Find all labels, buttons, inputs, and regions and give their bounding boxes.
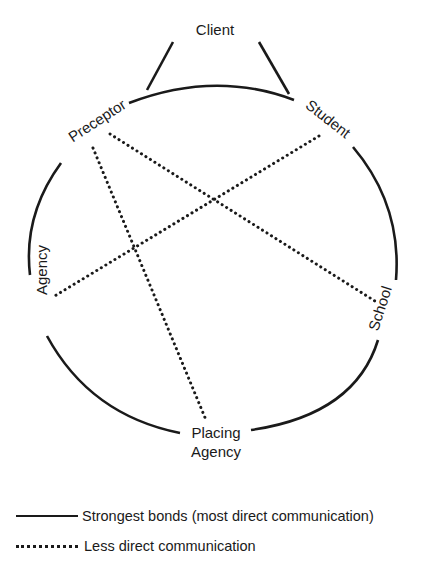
edge-student-school: [353, 147, 397, 280]
node-agency: Agency: [33, 244, 50, 295]
edge-student-agency: [53, 136, 319, 297]
legend-dotted: Less direct communication: [16, 538, 256, 554]
node-placing-agency-line2: Agency: [191, 443, 242, 460]
legend-dotted-label: Less direct communication: [84, 538, 256, 554]
edge-preceptor-student: [129, 86, 294, 103]
node-school: School: [365, 284, 395, 333]
edge-preceptor-placing-agency: [93, 148, 206, 420]
edge-client-student: [259, 42, 289, 94]
legend-solid: Strongest bonds (most direct communicati…: [16, 508, 374, 524]
edge-school-placing-agency: [251, 340, 378, 430]
node-client: Client: [196, 21, 235, 38]
node-preceptor: Preceptor: [65, 96, 129, 146]
node-student: Student: [303, 96, 355, 142]
edge-placing-agency-agency: [47, 336, 180, 433]
communication-diagram: Client Preceptor Student Agency School P…: [0, 0, 440, 480]
solid-line-swatch: [16, 515, 78, 517]
dotted-line-swatch: [16, 545, 78, 548]
edge-preceptor-school: [110, 134, 378, 303]
edge-client-preceptor: [147, 42, 173, 90]
node-placing-agency-line1: Placing: [191, 424, 240, 441]
legend-solid-label: Strongest bonds (most direct communicati…: [82, 508, 374, 524]
